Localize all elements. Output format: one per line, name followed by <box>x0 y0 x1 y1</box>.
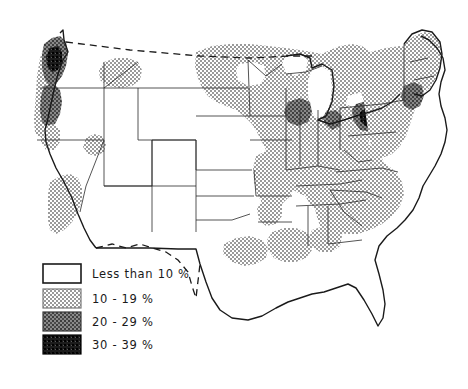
choropleth-map-figure: Less than 10 % 10 - 19 % 20 - 29 % 30 - … <box>0 0 468 389</box>
legend-swatch-2 <box>43 312 81 331</box>
legend-item-3[interactable]: 30 - 39 % <box>43 335 154 354</box>
legend-label-0: Less than 10 % <box>92 267 190 281</box>
legend-label-3: 30 - 39 % <box>92 338 154 352</box>
legend-item-2[interactable]: 20 - 29 % <box>43 312 154 331</box>
legend-swatch-3 <box>43 335 81 354</box>
legend-label-2: 20 - 29 % <box>92 315 154 329</box>
legend-swatch-1 <box>43 289 81 308</box>
legend-label-1: 10 - 19 % <box>92 292 154 306</box>
legend-swatch-0 <box>43 264 81 283</box>
legend-item-0[interactable]: Less than 10 % <box>43 264 190 283</box>
region-gulf-coast-louisiana <box>267 228 312 262</box>
legend-item-1[interactable]: 10 - 19 % <box>43 289 154 308</box>
region-chicago-illinois <box>284 98 312 126</box>
